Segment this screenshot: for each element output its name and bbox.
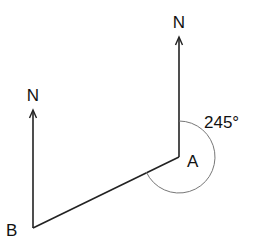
bearing-diagram: N N 245° A B — [0, 0, 259, 239]
bearing-label: 245° — [204, 113, 239, 132]
segment-ab — [33, 157, 179, 228]
point-a-label: A — [187, 152, 199, 171]
north-label-b: N — [27, 86, 39, 105]
point-b-label: B — [6, 221, 17, 239]
north-label-a: N — [173, 13, 185, 32]
